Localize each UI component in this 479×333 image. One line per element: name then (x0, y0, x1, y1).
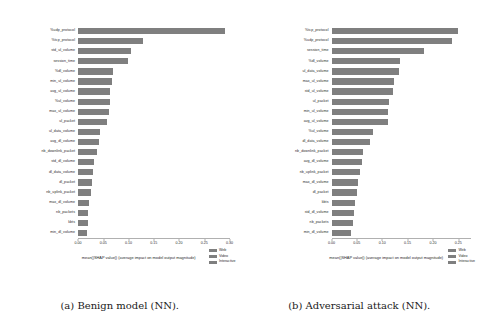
bar-row: %tcp_protocol (78, 36, 230, 46)
bar-row: dl_data_volume (78, 167, 230, 177)
bar-category-label: ul_packet (59, 120, 75, 124)
bar-category-label: %udp_protocol (304, 39, 329, 43)
bar-row: ul_data_volume (332, 66, 472, 76)
bar-row: session_time (78, 56, 230, 66)
bar (78, 200, 89, 206)
bar (78, 58, 128, 64)
tick-label: 0.15 (404, 241, 411, 245)
tick-label: 0.30 (226, 241, 233, 245)
bar-row: %dl_volume (332, 56, 472, 66)
tick-label: 0.25 (455, 241, 462, 245)
x-axis-tick: 0.20 (176, 239, 183, 246)
tick-label: 0.20 (429, 241, 436, 245)
x-axis-tick: 0.00 (328, 239, 335, 246)
x-axis-tick: 0.10 (379, 239, 386, 246)
bar-row: min_dl_volume (78, 228, 230, 238)
legend-item: Video (448, 255, 475, 259)
bar-category-label: min_dl_volume (304, 231, 329, 235)
tick-label: 0.00 (75, 241, 82, 245)
legend-label: Interactive (219, 260, 236, 264)
bar-category-label: nb_uplink_packet (300, 171, 329, 175)
bar-row: %udp_protocol (332, 36, 472, 46)
bar-row: nb_packets (78, 208, 230, 218)
bar (332, 159, 362, 165)
tick-label: 0.15 (150, 241, 157, 245)
bar-category-label: nb_downlink_packet (295, 150, 328, 154)
bar-category-label: dl_packet (313, 191, 329, 195)
bar-category-label: ul_data_volume (49, 130, 75, 134)
bar (78, 189, 91, 195)
bar (78, 159, 94, 165)
bar-row: ul_packet (78, 117, 230, 127)
bar-category-label: dl_data_volume (302, 140, 328, 144)
bar-row: %tcp_protocol (332, 26, 472, 36)
bar (332, 28, 458, 34)
bar-category-label: %tcp_protocol (52, 39, 75, 43)
bar-category-label: std_dl_volume (51, 160, 75, 164)
tick-label: 0.05 (353, 241, 360, 245)
bar (332, 58, 401, 64)
bar (332, 139, 371, 145)
x-axis-ticks-right: 0.000.050.100.150.200.25 (332, 239, 472, 249)
bar-category-label: nb_uplink_packet (46, 191, 75, 195)
legend-item: Interactive (448, 260, 475, 264)
legend-label: Web (219, 249, 226, 253)
tick-label: 0.20 (176, 241, 183, 245)
bar-row: dl_packet (78, 177, 230, 187)
bar-row: max_ul_volume (332, 76, 472, 86)
legend-swatch (448, 255, 456, 258)
bar-row: ul_packet (332, 97, 472, 107)
legend-left: WebVideoInteractive (209, 249, 236, 264)
panel-benign-model: %udp_protocol%tcp_protocolstd_ul_volumes… (0, 0, 240, 298)
legend-swatch (209, 261, 217, 264)
bar-category-label: dl_packet (59, 181, 75, 185)
bar-row: dl_packet (332, 188, 472, 198)
tick-label: 0.05 (100, 241, 107, 245)
bar-rows-left: %udp_protocol%tcp_protocolstd_ul_volumes… (78, 26, 230, 238)
bar (78, 129, 100, 135)
bar (78, 109, 109, 115)
bar (332, 48, 425, 54)
bar-row: avg_dl_volume (78, 137, 230, 147)
legend-item: Web (209, 249, 236, 253)
legend-swatch (448, 249, 456, 252)
bar (332, 68, 399, 74)
bar (332, 220, 353, 226)
bar-category-label: dl_data_volume (49, 171, 75, 175)
bar-category-label: max_ul_volume (303, 80, 329, 84)
bar-category-label: %dl_volume (308, 60, 328, 64)
bar-category-label: ul_data_volume (302, 70, 328, 74)
bar-category-label: kbts (68, 221, 75, 225)
bar-row: max_ul_volume (78, 107, 230, 117)
bar (332, 38, 453, 44)
panel-adversarial-attack: %tcp_protocol%udp_protocolsession_time%d… (240, 0, 479, 298)
bar-row: nb_uplink_packet (332, 167, 472, 177)
bar-row: nb_packets (332, 218, 472, 228)
bar-category-label: min_ul_volume (304, 110, 329, 114)
tick-label: 0.25 (201, 241, 208, 245)
bar-row: %udp_protocol (78, 26, 230, 36)
bar-category-label: nb_packets (56, 211, 75, 215)
tick-label: 0.10 (125, 241, 132, 245)
bar-category-label: std_dl_volume (305, 211, 329, 215)
bar-row: std_dl_volume (332, 208, 472, 218)
bar-category-label: max_dl_volume (303, 181, 329, 185)
bar-category-label: %ul_volume (55, 100, 75, 104)
bar (78, 28, 225, 34)
plot-area-left: %udp_protocol%tcp_protocolstd_ul_volumes… (78, 26, 230, 238)
bar (332, 88, 394, 94)
tick-label: 0.00 (328, 241, 335, 245)
bar (78, 139, 99, 145)
bar-category-label: %dl_volume (55, 70, 75, 74)
bar-category-label: std_ul_volume (305, 90, 329, 94)
bar-category-label: min_ul_volume (50, 80, 75, 84)
legend-label: Interactive (458, 260, 475, 264)
bar (78, 119, 107, 125)
bar-row: nb_uplink_packet (78, 188, 230, 198)
caption-benign-model: (a) Benign model (NN). (0, 300, 240, 311)
legend-swatch (448, 261, 456, 264)
bar (332, 210, 354, 216)
legend-right: WebVideoInteractive (448, 249, 475, 264)
legend-swatch (209, 255, 217, 258)
bar-category-label: min_dl_volume (50, 231, 75, 235)
